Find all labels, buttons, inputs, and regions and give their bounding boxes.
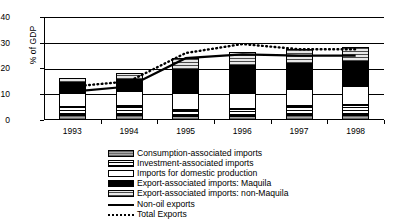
y-tick-label-0: 0 — [0, 116, 10, 125]
legend-swatch-line-solid — [108, 201, 134, 208]
legend-item-2: Imports for domestic production — [108, 168, 288, 178]
legend-label-0: Consumption-associated imports — [137, 149, 262, 158]
x-tick-label-1997: 1997 — [279, 126, 319, 136]
series-line-non-oil-exports — [72, 54, 355, 91]
legend-label-2: Imports for domestic production — [137, 169, 257, 178]
x-tick-mark-1995 — [214, 120, 215, 124]
y-tick-label-40: 40 — [0, 13, 10, 22]
chart-legend: Consumption-associated importsInvestment… — [108, 148, 288, 219]
legend-swatch-investment — [108, 160, 134, 167]
legend-label-5: Non-oil exports — [137, 200, 195, 209]
y-tick-label-20: 20 — [0, 64, 10, 73]
legend-item-5: Non-oil exports — [108, 199, 288, 209]
chart-container: % of GDP 40 30 20 10 0 19931994199519961… — [0, 0, 396, 224]
x-tick-label-1993: 1993 — [52, 126, 92, 136]
legend-label-3: Export-associated imports: Maquila — [137, 179, 271, 188]
legend-item-4: Export-associated imports: non-Maquila — [108, 189, 288, 199]
legend-label-4: Export-associated imports: non-Maquila — [137, 189, 288, 198]
legend-swatch-line-dotted — [108, 211, 134, 218]
series-line-total-exports — [72, 44, 355, 86]
y-tick-mark-0 — [40, 120, 44, 121]
x-tick-mark-1998 — [384, 120, 385, 124]
legend-swatch-maquila — [108, 180, 134, 187]
legend-swatch-nonmaquila — [108, 190, 134, 197]
plot-area — [44, 17, 384, 120]
x-tick-label-1994: 1994 — [109, 126, 149, 136]
legend-item-3: Export-associated imports: Maquila — [108, 179, 288, 189]
x-tick-mark-1996 — [271, 120, 272, 124]
x-tick-mark-1997 — [327, 120, 328, 124]
y-tick-label-30: 30 — [0, 39, 10, 48]
x-tick-mark-1993 — [101, 120, 102, 124]
legend-item-6: Total Exports — [108, 209, 288, 219]
legend-label-6: Total Exports — [137, 210, 187, 219]
x-tick-label-1996: 1996 — [222, 126, 262, 136]
legend-item-1: Investment-associated imports — [108, 158, 288, 168]
legend-label-1: Investment-associated imports — [137, 159, 254, 168]
legend-swatch-domestic — [108, 170, 134, 177]
legend-item-0: Consumption-associated imports — [108, 148, 288, 158]
legend-swatch-consumption — [108, 150, 134, 157]
y-axis-title: % of GDP — [28, 10, 38, 80]
x-tick-label-1995: 1995 — [166, 126, 206, 136]
x-tick-label-1998: 1998 — [336, 126, 376, 136]
x-tick-mark-1994 — [157, 120, 158, 124]
line-series-layer — [44, 17, 384, 120]
y-tick-label-10: 10 — [0, 90, 10, 99]
